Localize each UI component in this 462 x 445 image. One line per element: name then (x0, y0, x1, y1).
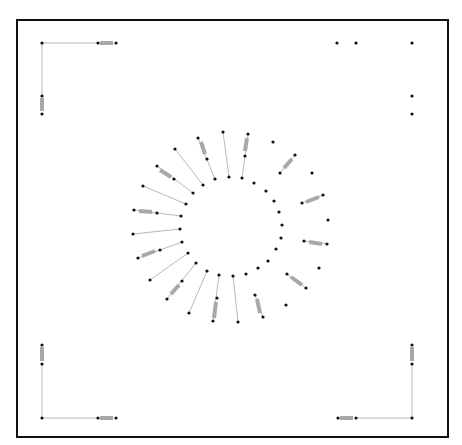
pad-dot (321, 193, 324, 196)
pad-dot (217, 273, 220, 276)
pad-dot (165, 297, 168, 300)
resistor-component (257, 299, 260, 313)
pad-dot (205, 269, 208, 272)
pad-dot (205, 157, 208, 160)
pad-dot (310, 171, 313, 174)
pad-dot (326, 218, 329, 221)
connection-pads (40, 41, 413, 419)
pad-dot (158, 248, 161, 251)
pad-dot (280, 223, 283, 226)
pad-dot (274, 247, 277, 250)
pad-dot (178, 227, 181, 230)
pad-dot (211, 319, 214, 322)
pad-dot (410, 94, 413, 97)
board-outline (17, 20, 448, 437)
pad-dot (194, 261, 197, 264)
pad-dot (243, 154, 246, 157)
pad-dot (196, 136, 199, 139)
pad-dot (266, 259, 269, 262)
pad-dot (179, 214, 182, 217)
pad-dot (278, 171, 281, 174)
pad-dot (354, 41, 357, 44)
wire-trace (143, 186, 186, 204)
pad-dot (40, 343, 43, 346)
resistor-component (139, 211, 152, 212)
pad-dot (317, 266, 320, 269)
pad-dot (279, 236, 282, 239)
pad-dot (244, 272, 247, 275)
pad-dot (302, 239, 305, 242)
pad-dot (300, 201, 303, 204)
pad-dot (141, 184, 144, 187)
resistor-component (142, 251, 155, 256)
pad-dot (410, 343, 413, 346)
wire-traces (42, 43, 412, 418)
resistor-component (309, 242, 322, 244)
pad-dot (236, 320, 239, 323)
pad-dot (148, 278, 151, 281)
pad-dot (173, 147, 176, 150)
pad-dot (285, 272, 288, 275)
pad-dot (114, 41, 117, 44)
pad-dot (410, 362, 413, 365)
pad-dot (354, 416, 357, 419)
pad-dot (271, 140, 274, 143)
resistor-component (214, 302, 216, 318)
circuit-layout-canvas (0, 0, 462, 445)
resistor-component (160, 170, 171, 177)
pad-dot (187, 311, 190, 314)
pad-dot (136, 256, 139, 259)
wire-trace (133, 229, 180, 234)
pad-dot (336, 416, 339, 419)
resistor-component (171, 285, 179, 294)
resistor-component (291, 277, 302, 285)
pad-dot (191, 191, 194, 194)
pad-dot (277, 210, 280, 213)
pad-dot (132, 208, 135, 211)
pad-dot (253, 293, 256, 296)
pad-dot (40, 416, 43, 419)
pad-dot (215, 296, 218, 299)
pad-dot (410, 41, 413, 44)
wire-trace (175, 149, 203, 185)
pad-dot (227, 175, 230, 178)
pad-dot (180, 240, 183, 243)
pad-dot (221, 130, 224, 133)
pad-dot (325, 242, 328, 245)
pad-dot (261, 315, 264, 318)
wire-trace (223, 132, 229, 177)
pad-dot (184, 202, 187, 205)
pad-dot (40, 41, 43, 44)
pad-dot (304, 286, 307, 289)
pad-dot (264, 189, 267, 192)
pad-dot (96, 41, 99, 44)
pad-dot (114, 416, 117, 419)
pad-dot (155, 211, 158, 214)
pad-dot (172, 177, 175, 180)
pad-dot (40, 362, 43, 365)
wire-trace (150, 253, 188, 280)
pad-dot (256, 266, 259, 269)
pad-dot (335, 41, 338, 44)
pad-dot (213, 177, 216, 180)
pad-dot (96, 416, 99, 419)
pad-dot (246, 132, 249, 135)
pad-dot (240, 176, 243, 179)
resistor-component (306, 197, 319, 202)
pad-dot (231, 274, 234, 277)
pad-dot (284, 303, 287, 306)
resistor-component (201, 142, 205, 154)
pad-dot (155, 164, 158, 167)
pad-dot (252, 181, 255, 184)
resistor-components (42, 43, 412, 418)
resistor-component (284, 159, 292, 168)
pad-dot (272, 199, 275, 202)
wire-trace (233, 276, 238, 322)
pad-dot (40, 112, 43, 115)
pad-dot (293, 153, 296, 156)
wire-trace (189, 271, 207, 313)
pad-dot (410, 416, 413, 419)
pad-dot (40, 94, 43, 97)
pad-dot (180, 279, 183, 282)
resistor-component (245, 138, 247, 151)
